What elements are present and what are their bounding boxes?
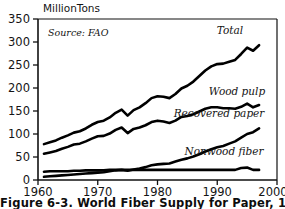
world-fiber-supply-line-chart: 0 50 100 150 200 250 300 350 1960 1970 1…: [0, 0, 285, 209]
y-tick-label-150: 150: [8, 104, 30, 118]
series-label-wood-pulp: Wood pulp: [209, 85, 266, 97]
figure-caption: Figure 6-3. World Fiber Supply for Paper…: [0, 196, 285, 209]
series-label-total: Total: [217, 24, 243, 36]
y-tick-label-250: 250: [8, 58, 30, 72]
y-tick-label-50: 50: [15, 150, 30, 164]
figure-container: 0 50 100 150 200 250 300 350 1960 1970 1…: [0, 0, 285, 209]
y-tick-label-100: 100: [8, 127, 30, 141]
y-tick-label-200: 200: [8, 81, 30, 95]
y-tick-label-300: 300: [8, 35, 30, 49]
series-label-recovered-paper: Recovered paper: [173, 107, 266, 119]
source-note: Source: FAO: [48, 27, 109, 38]
y-tick-label-350: 350: [8, 12, 30, 26]
y-axis-title: MillionTons: [43, 2, 100, 14]
series-label-nonwood-fiber: Nonwood fiber: [184, 145, 265, 157]
